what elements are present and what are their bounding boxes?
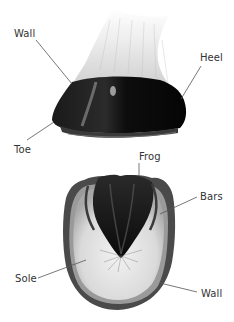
label-heel: Heel (200, 52, 223, 63)
leader-heel (181, 66, 201, 99)
hoof-underside-view (63, 175, 175, 310)
label-toe: Toe (14, 144, 31, 155)
leader-wall-top (36, 40, 72, 84)
label-frog: Frog (139, 151, 161, 162)
label-wall-bottom: Wall (201, 288, 222, 299)
wall-highlight-spot (110, 86, 116, 96)
hoof-wall (52, 76, 186, 133)
leader-wall-bottom (160, 283, 197, 292)
label-wall-top: Wall (14, 28, 35, 39)
leader-toe (27, 122, 54, 140)
hoof-side-view (52, 8, 186, 138)
label-bars: Bars (200, 191, 223, 202)
hoof-anatomy-diagram: Wall Heel Toe Frog Bars Sole Wall (0, 0, 234, 322)
label-sole: Sole (15, 273, 37, 284)
